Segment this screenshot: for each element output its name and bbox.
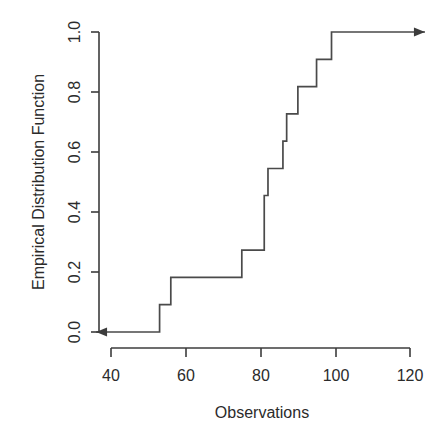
left-arrow-icon — [96, 328, 107, 337]
y-tick-label-0_8: 0.8 — [66, 81, 83, 103]
ecdf-plot-svg: 1.0 0.8 0.6 0.4 0.2 0.0 Empirical Distri… — [0, 0, 445, 439]
y-axis-title: Empirical Distribution Function — [30, 74, 47, 290]
y-tick-label-0_4: 0.4 — [66, 201, 83, 223]
x-tick-label-100: 100 — [323, 367, 350, 384]
x-tick-label-40: 40 — [102, 367, 120, 384]
x-tick-label-80: 80 — [252, 367, 270, 384]
x-tick-label-60: 60 — [177, 367, 195, 384]
x-tick-label-120: 120 — [397, 367, 424, 384]
x-axis-title: Observations — [215, 404, 309, 421]
y-tick-label-0_0: 0.0 — [66, 321, 83, 343]
ecdf-chart: 1.0 0.8 0.6 0.4 0.2 0.0 Empirical Distri… — [0, 0, 445, 439]
right-arrow-icon — [414, 28, 425, 37]
y-tick-label-0_2: 0.2 — [66, 261, 83, 283]
ecdf-step-line — [96, 32, 425, 332]
y-tick-label-0_6: 0.6 — [66, 141, 83, 163]
y-tick-label-1_0: 1.0 — [66, 21, 83, 43]
